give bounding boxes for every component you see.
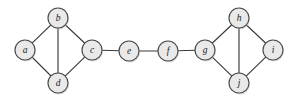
graph-node-a[interactable]: a bbox=[15, 40, 36, 61]
node-label-b: b bbox=[56, 13, 61, 23]
node-label-g: g bbox=[203, 45, 208, 55]
graph-node-g[interactable]: g bbox=[195, 40, 216, 61]
node-label-a: a bbox=[23, 45, 28, 55]
node-label-i: i bbox=[272, 45, 275, 55]
graph-edge-c-d bbox=[65, 57, 85, 77]
graph-node-i[interactable]: i bbox=[263, 40, 284, 61]
edge-layer bbox=[32, 25, 266, 77]
graph-diagram: abcdefghij bbox=[0, 0, 294, 102]
graph-node-f[interactable]: f bbox=[158, 41, 179, 62]
node-label-d: d bbox=[56, 78, 61, 88]
graph-edge-g-j bbox=[212, 57, 232, 77]
graph-node-e[interactable]: e bbox=[119, 41, 140, 62]
graph-edge-i-j bbox=[246, 57, 266, 77]
graph-node-d[interactable]: d bbox=[48, 73, 69, 94]
graph-node-j[interactable]: j bbox=[229, 73, 250, 94]
graph-canvas: abcdefghij bbox=[0, 0, 294, 102]
node-label-h: h bbox=[237, 13, 242, 23]
graph-edge-h-i bbox=[246, 25, 266, 44]
graph-node-h[interactable]: h bbox=[229, 8, 250, 29]
graph-edge-a-b bbox=[32, 25, 51, 44]
graph-edge-a-d bbox=[32, 57, 52, 77]
graph-node-b[interactable]: b bbox=[48, 8, 69, 29]
graph-edge-g-h bbox=[212, 25, 232, 44]
node-label-e: e bbox=[127, 46, 131, 56]
graph-edge-b-c bbox=[65, 25, 85, 44]
graph-node-c[interactable]: c bbox=[82, 40, 103, 61]
